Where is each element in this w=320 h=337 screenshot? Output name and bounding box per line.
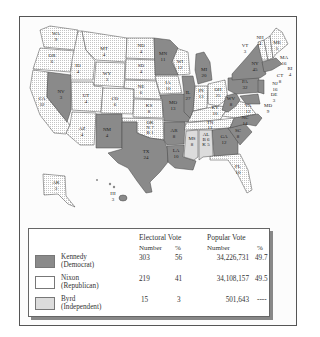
svg-text:ME: ME	[273, 40, 281, 45]
svg-text:10: 10	[174, 154, 180, 159]
svg-text:KS: KS	[146, 103, 153, 108]
pv-number: 34,108,157	[195, 275, 249, 283]
svg-text:10: 10	[236, 170, 242, 175]
pv-pct-header: %	[257, 244, 263, 252]
pv-number: 34,226,731	[195, 254, 249, 262]
svg-text:3: 3	[244, 49, 247, 54]
svg-text:B 1: B 1	[146, 130, 154, 135]
svg-text:VT: VT	[242, 43, 249, 48]
svg-text:WI: WI	[177, 59, 184, 64]
svg-text:MS: MS	[188, 136, 195, 141]
legend-row-byrd: Byrd(Independent) 15 3 501,643 ----	[29, 295, 269, 313]
svg-text:32: 32	[40, 102, 46, 107]
republican-swatch	[35, 276, 55, 289]
svg-text:UT: UT	[83, 93, 90, 98]
ev-pct: 3	[177, 296, 181, 304]
popular-vote-header: Popular Vote	[207, 233, 246, 242]
svg-text:K 5: K 5	[202, 142, 210, 147]
svg-text:MN: MN	[159, 51, 167, 56]
svg-text:TX: TX	[143, 149, 150, 154]
svg-text:IN: IN	[198, 88, 204, 93]
candidate-name: Nixon(Republican)	[61, 274, 99, 290]
pv-number: 501,643	[195, 296, 249, 304]
legend-table: Electoral Vote Popular Vote Number % Num…	[28, 228, 270, 317]
svg-text:8: 8	[279, 79, 282, 84]
svg-text:ID: ID	[75, 63, 81, 68]
svg-text:3: 3	[112, 197, 115, 202]
svg-text:SC: SC	[235, 128, 242, 133]
svg-text:MD: MD	[264, 103, 272, 108]
pv-pct: ----	[257, 296, 267, 304]
democrat-swatch	[35, 255, 55, 268]
candidate-name: Kennedy(Democrat)	[61, 253, 94, 269]
svg-text:GA: GA	[220, 134, 228, 139]
svg-text:MA: MA	[280, 55, 288, 60]
legend-row-kennedy: Kennedy(Democrat) 303 56 34,226,731 49.7	[29, 253, 269, 271]
svg-text:NM: NM	[103, 127, 112, 132]
svg-text:27: 27	[186, 96, 192, 101]
svg-text:AK: AK	[52, 180, 60, 185]
svg-text:10: 10	[213, 111, 219, 116]
svg-text:DE: DE	[271, 92, 278, 97]
svg-text:NY: NY	[251, 61, 259, 66]
svg-text:10: 10	[166, 86, 172, 91]
svg-text:HI: HI	[110, 191, 116, 196]
svg-text:12: 12	[222, 140, 228, 145]
svg-text:VA: VA	[245, 103, 252, 108]
svg-text:20: 20	[202, 73, 208, 78]
svg-text:14: 14	[243, 121, 249, 126]
svg-text:NJ: NJ	[272, 81, 278, 86]
electoral-vote-header: Electoral Vote	[139, 233, 181, 242]
svg-text:ND: ND	[137, 43, 145, 48]
pv-pct: 49.7	[255, 254, 268, 262]
svg-text:NV: NV	[57, 89, 65, 94]
svg-text:4: 4	[289, 72, 292, 77]
svg-text:PA: PA	[242, 79, 248, 84]
ev-pct: 41	[175, 275, 182, 283]
svg-text:NH: NH	[256, 35, 264, 40]
pv-pct: 49.5	[255, 275, 268, 283]
svg-text:WA: WA	[52, 31, 60, 36]
svg-text:RI: RI	[288, 66, 293, 71]
svg-text:25: 25	[216, 93, 222, 98]
svg-text:24: 24	[144, 155, 150, 160]
svg-text:WV: WV	[227, 96, 236, 101]
ev-pct: 56	[175, 254, 182, 262]
svg-text:LA: LA	[173, 148, 180, 153]
ev-number-header: Number	[139, 244, 162, 252]
svg-text:32: 32	[243, 85, 249, 90]
svg-text:CO: CO	[112, 96, 119, 101]
svg-text:13: 13	[199, 94, 205, 99]
svg-text:OR: OR	[49, 53, 57, 58]
svg-text:9: 9	[267, 109, 270, 114]
independent-swatch	[35, 297, 55, 310]
svg-text:11: 11	[208, 125, 213, 130]
ev-number: 303	[139, 254, 150, 262]
svg-text:13: 13	[171, 106, 177, 111]
svg-text:CT: CT	[277, 73, 283, 78]
svg-text:AZ: AZ	[79, 126, 86, 131]
svg-text:MI: MI	[201, 67, 207, 72]
ev-number: 219	[139, 275, 150, 283]
svg-text:SD: SD	[138, 63, 145, 68]
svg-text:IA: IA	[165, 80, 171, 85]
svg-text:11: 11	[161, 57, 166, 62]
svg-text:IL: IL	[186, 90, 191, 95]
svg-text:12: 12	[246, 109, 252, 114]
svg-text:KY: KY	[211, 105, 219, 110]
svg-text:FL: FL	[235, 164, 241, 169]
ev-number: 15	[141, 296, 148, 304]
svg-text:3: 3	[273, 98, 276, 103]
pv-number-header: Number	[207, 244, 230, 252]
svg-text:MO: MO	[169, 100, 177, 105]
svg-text:45: 45	[253, 67, 259, 72]
ev-pct-header: %	[175, 244, 181, 252]
svg-text:OH: OH	[214, 87, 222, 92]
legend-row-nixon: Nixon(Republican) 219 41 34,108,157 49.5	[29, 274, 269, 292]
svg-text:WY: WY	[103, 71, 112, 76]
svg-text:NC: NC	[242, 115, 250, 120]
svg-text:MT: MT	[100, 46, 108, 51]
svg-text:16: 16	[282, 61, 288, 66]
candidate-name: Byrd(Independent)	[61, 295, 101, 311]
svg-text:NE: NE	[138, 84, 145, 89]
